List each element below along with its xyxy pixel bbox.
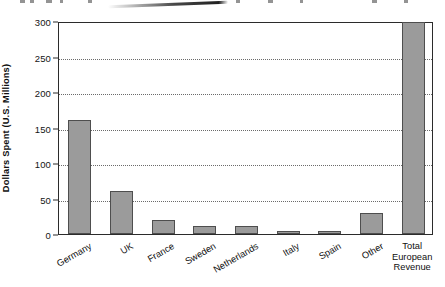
x-tick-label: Germany — [55, 241, 93, 269]
y-tick-label: 50 — [10, 194, 51, 205]
bar — [235, 226, 258, 234]
bar — [110, 191, 133, 234]
y-tick-label: 300 — [10, 17, 51, 28]
x-tick-label: Other — [360, 241, 385, 261]
x-tick-label: Sweden — [183, 241, 217, 266]
gridline — [59, 130, 432, 131]
y-tick-label: 150 — [10, 123, 51, 134]
x-tick-label: Italy — [281, 241, 301, 258]
y-tick-label: 250 — [10, 52, 51, 63]
x-tick-label-line: Revenue — [392, 262, 432, 273]
bar — [277, 231, 300, 234]
bar-chart: Dollars Spent (U.S. Millions) 0501001502… — [0, 0, 445, 287]
y-tick-label: 200 — [10, 88, 51, 99]
y-tick-label: 0 — [10, 230, 51, 241]
x-tick-label: Spain — [317, 241, 343, 262]
bar — [193, 226, 216, 234]
plot-area — [58, 22, 433, 235]
gridline — [59, 59, 432, 60]
x-tick-label-line: European — [392, 252, 432, 263]
bar — [68, 120, 91, 234]
x-tick-label-line: Total — [392, 241, 432, 252]
x-tick-label: France — [146, 241, 176, 264]
x-tick-label: TotalEuropeanRevenue — [392, 241, 432, 273]
bar — [360, 213, 383, 234]
bar — [318, 231, 341, 234]
bar — [152, 220, 175, 234]
y-tick-label: 100 — [10, 159, 51, 170]
gridline — [59, 165, 432, 166]
x-tick-label: Netherlands — [211, 241, 259, 275]
gridline — [59, 94, 432, 95]
bar — [402, 22, 425, 234]
x-tick-label: UK — [118, 241, 134, 256]
